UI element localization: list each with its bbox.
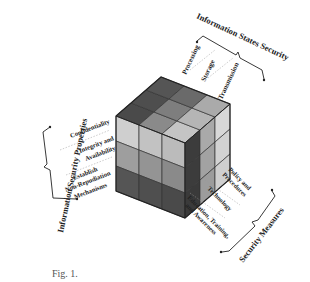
state-storage: Storage <box>200 59 217 83</box>
title-security-measures: Security Measures <box>237 205 287 265</box>
title-information-states-security: Information States Security <box>195 11 291 63</box>
measure-technology: Technology <box>206 185 234 213</box>
mccumber-cube-diagram: Processing Storage Transmission Informat… <box>0 0 310 282</box>
state-processing: Processing <box>181 43 202 76</box>
state-transmission: Transmission <box>217 61 241 101</box>
figure-caption: Fig. 1. <box>52 268 78 279</box>
